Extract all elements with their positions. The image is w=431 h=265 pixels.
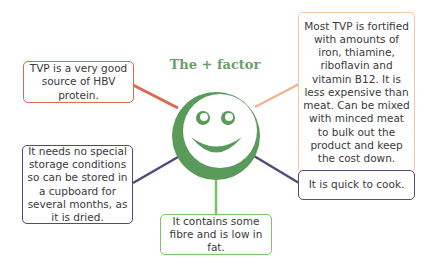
smiley-face-icon <box>172 92 260 180</box>
connector-quick <box>254 156 299 183</box>
box-fortified: Most TVP is fortified with amounts of ir… <box>298 12 415 173</box>
box-protein-text: TVP is a very good source of HBV protein… <box>28 62 129 102</box>
box-fibre: It contains some fibre and is low in fat… <box>160 214 272 255</box>
box-protein: TVP is a very good source of HBV protein… <box>23 61 134 103</box>
box-storage: It needs no special storage conditions s… <box>22 145 133 224</box>
box-storage-text: It needs no special storage conditions s… <box>27 145 128 224</box>
connector-protein <box>133 85 178 108</box>
box-fibre-text: It contains some fibre and is low in fat… <box>165 215 267 255</box>
connector-fortified <box>255 84 299 107</box>
box-quick-text: It is quick to cook. <box>309 178 405 191</box>
connector-storage <box>133 157 178 183</box>
box-fortified-text: Most TVP is fortified with amounts of ir… <box>303 20 410 165</box>
box-quick: It is quick to cook. <box>298 170 415 200</box>
diagram-title: The + factor <box>160 57 270 72</box>
